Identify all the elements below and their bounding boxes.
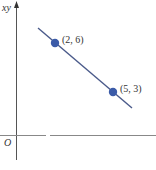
y-axis-label: xy: [2, 3, 11, 13]
y-axis-arrow-icon: [14, 1, 19, 8]
point-2-6: [51, 39, 59, 47]
point-label-2-6: (2, 6): [62, 35, 84, 45]
point-5-3: [109, 88, 117, 96]
coordinate-diagram: xy O (2, 6) (5, 3): [0, 0, 156, 170]
origin-label: O: [4, 138, 11, 148]
point-label-5-3: (5, 3): [120, 84, 142, 94]
